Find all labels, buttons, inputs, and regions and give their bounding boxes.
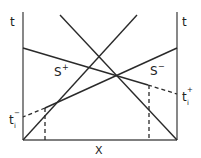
sweep-diagram: t t X S + S − t i − t i + [0,0,201,158]
s-minus-label: S [150,64,158,78]
s-plus-dashed-extension [148,85,177,94]
left-axis-label: t [10,15,15,29]
x-axis-label: X [95,144,103,157]
s-minus-line [45,48,177,108]
s-plus-superscript: + [62,63,69,72]
ti-minus-superscript: − [14,109,20,117]
descending-characteristic-line [60,15,177,140]
s-plus-line [23,48,148,85]
right-axis-label: t [182,15,187,29]
s-plus-label: S [54,65,62,79]
s-minus-dashed-extension [23,108,45,117]
s-minus-superscript: − [158,62,165,71]
ascending-characteristic-line [23,15,137,140]
ti-plus-subscript: i [187,99,189,107]
ti-plus-superscript: + [187,86,193,94]
ti-minus-subscript: i [14,122,16,130]
